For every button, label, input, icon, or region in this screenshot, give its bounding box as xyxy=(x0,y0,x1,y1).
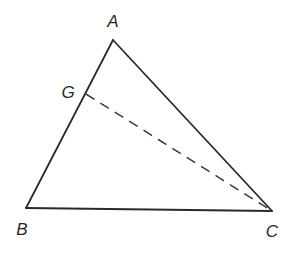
side-bc xyxy=(26,208,272,211)
vertex-label-a: A xyxy=(107,13,118,30)
vertex-label-b: B xyxy=(16,221,27,238)
point-label-g: G xyxy=(61,84,74,101)
triangle-diagram: A G B C xyxy=(0,0,292,259)
diagram-svg xyxy=(0,0,292,259)
vertex-label-c: C xyxy=(266,223,278,240)
side-ab xyxy=(26,40,113,208)
